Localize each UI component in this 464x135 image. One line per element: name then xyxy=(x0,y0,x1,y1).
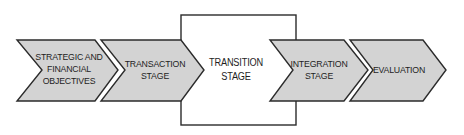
strategic-objectives-label: STRATEGIC AND FINANCIAL OBJECTIVES xyxy=(33,51,105,87)
label-line: STRATEGIC AND xyxy=(33,51,105,63)
label-line: OBJECTIVES xyxy=(33,75,105,87)
label-line: STAGE xyxy=(289,70,350,82)
label-line: STAGE xyxy=(121,70,189,82)
label-line: TRANSACTION xyxy=(121,58,189,70)
label-line: INTEGRATION xyxy=(289,58,350,70)
integration-stage-label: INTEGRATION STAGE xyxy=(289,58,350,82)
transition-stage-label: TRANSITION STAGE xyxy=(203,56,269,84)
transaction-stage-label: TRANSACTION STAGE xyxy=(121,58,189,82)
evaluation-label: EVALUATION xyxy=(369,64,430,76)
label-line: STAGE xyxy=(203,70,269,84)
label-line: FINANCIAL xyxy=(33,63,105,75)
label-line: EVALUATION xyxy=(369,64,430,76)
label-line: TRANSITION xyxy=(203,56,269,70)
